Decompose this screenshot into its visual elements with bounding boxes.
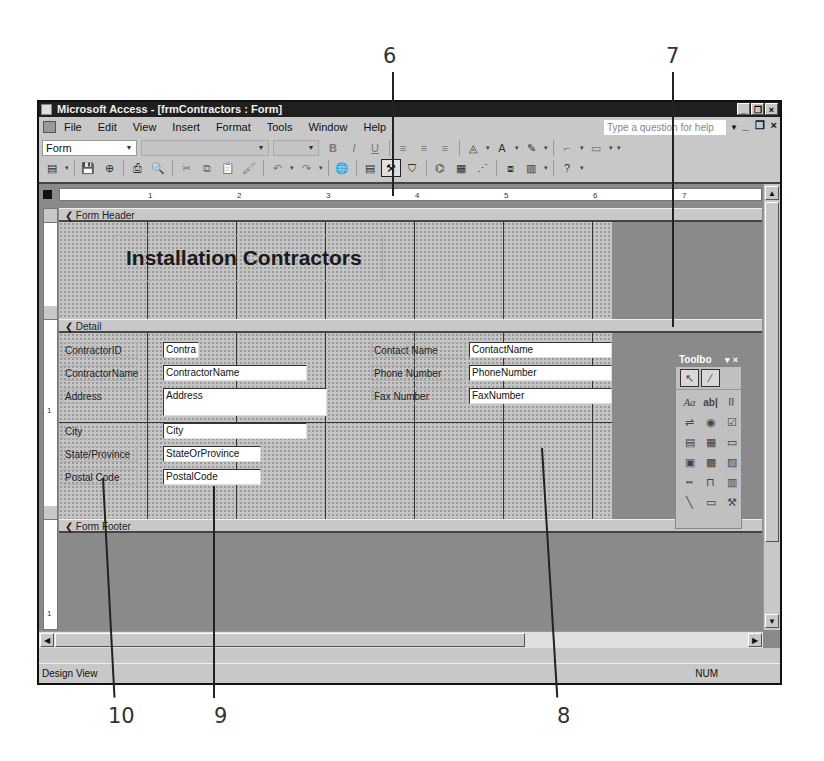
scroll-right-icon[interactable]: ▶: [748, 633, 762, 647]
chevron-down-icon[interactable]: ▼: [123, 142, 135, 154]
chevron-down-icon[interactable]: ▾: [542, 164, 550, 172]
doc-restore-button[interactable]: ❐: [755, 119, 765, 132]
save-button[interactable]: 💾: [78, 159, 98, 177]
fax-number-textbox[interactable]: FaxNumber: [469, 388, 612, 404]
menu-insert[interactable]: Insert: [172, 121, 200, 133]
label-tool[interactable]: Aa: [680, 393, 699, 411]
align-right-button[interactable]: ≡: [435, 139, 455, 157]
address-label[interactable]: Address: [62, 388, 137, 404]
subform-tool[interactable]: ▥: [722, 473, 741, 491]
tab-control-tool[interactable]: ⊓: [701, 473, 720, 491]
help-button[interactable]: ?: [557, 159, 577, 177]
menu-file[interactable]: File: [64, 121, 82, 133]
italic-button[interactable]: I: [344, 139, 364, 157]
vertical-scroll-thumb[interactable]: [765, 202, 779, 542]
font-name-combo[interactable]: ▼: [141, 140, 269, 156]
restore-button[interactable]: ❐: [751, 103, 764, 115]
detail-bar[interactable]: ❮ Detail: [59, 319, 762, 333]
command-button-tool[interactable]: ▭: [722, 433, 741, 451]
view-button[interactable]: ▤: [42, 159, 62, 177]
list-box-tool[interactable]: ▦: [701, 433, 720, 451]
fill-color-button[interactable]: ◬: [463, 139, 483, 157]
ask-question-dropdown-icon[interactable]: ▼: [728, 120, 740, 135]
city-label[interactable]: City: [62, 423, 137, 439]
form-header-bar[interactable]: ❮ Form Header: [59, 208, 762, 222]
new-object-button[interactable]: ▥: [521, 159, 541, 177]
scroll-up-icon[interactable]: ▲: [765, 186, 779, 200]
scroll-down-icon[interactable]: ▼: [765, 614, 779, 628]
menu-edit[interactable]: Edit: [98, 121, 117, 133]
code-button[interactable]: ⌬: [430, 159, 450, 177]
chevron-down-icon[interactable]: ▾: [578, 144, 586, 152]
chevron-down-icon[interactable]: ▾: [513, 144, 521, 152]
option-button-tool[interactable]: ◉: [701, 413, 720, 431]
doc-close-button[interactable]: ×: [771, 119, 777, 132]
toolbox-title-bar[interactable]: Toolbo ▾ ×: [676, 353, 741, 367]
menu-format[interactable]: Format: [216, 121, 251, 133]
check-box-tool[interactable]: ☑: [722, 413, 741, 431]
align-center-button[interactable]: ≡: [414, 139, 434, 157]
header-section-selector[interactable]: [44, 209, 57, 223]
chevron-down-icon[interactable]: ▾: [317, 164, 325, 172]
doc-minimize-button[interactable]: _: [742, 119, 748, 132]
more-controls-tool[interactable]: ⚒: [722, 493, 741, 511]
toolbox-button[interactable]: ⚒: [381, 159, 401, 177]
state-province-label[interactable]: State/Province: [62, 446, 137, 462]
text-box-tool[interactable]: ab|: [701, 393, 720, 411]
unbound-object-frame-tool[interactable]: ▩: [701, 453, 720, 471]
menu-tools[interactable]: Tools: [267, 121, 293, 133]
chevron-down-icon[interactable]: ▾: [607, 144, 615, 152]
chevron-down-icon[interactable]: ▾: [63, 164, 71, 172]
format-painter-button[interactable]: 🖌: [239, 159, 259, 177]
form-document-icon[interactable]: [43, 121, 56, 133]
toolbar-options-icon[interactable]: ▾: [578, 164, 586, 172]
autoformat-button[interactable]: ⛉: [402, 159, 422, 177]
form-footer-bar[interactable]: ❮ Form Footer: [59, 519, 762, 533]
chevron-down-icon[interactable]: ▾: [484, 144, 492, 152]
city-textbox[interactable]: City: [163, 423, 307, 439]
bold-button[interactable]: B: [323, 139, 343, 157]
scroll-left-icon[interactable]: ◀: [40, 633, 54, 647]
phone-number-label[interactable]: Phone Number: [371, 365, 465, 381]
bound-object-frame-tool[interactable]: ▨: [722, 453, 741, 471]
rectangle-tool[interactable]: ▭: [701, 493, 720, 511]
contractorid-textbox[interactable]: Contra: [163, 342, 199, 358]
contact-name-textbox[interactable]: ContactName: [469, 342, 612, 358]
form-selector[interactable]: [43, 190, 52, 199]
chevron-down-icon[interactable]: ▾: [542, 144, 550, 152]
detail-section[interactable]: ContractorID Contra ContractorName Contr…: [59, 333, 612, 519]
line-color-button[interactable]: ✎: [521, 139, 541, 157]
contractorname-textbox[interactable]: ContractorName: [163, 365, 307, 381]
print-preview-button[interactable]: 🔍: [148, 159, 168, 177]
horizontal-scrollbar[interactable]: ◀ ▶: [39, 631, 763, 648]
contact-name-label[interactable]: Contact Name: [371, 342, 465, 358]
menu-help[interactable]: Help: [364, 121, 387, 133]
contractorname-label[interactable]: ContractorName: [62, 365, 137, 381]
line-tool[interactable]: ╲: [680, 493, 699, 511]
state-province-textbox[interactable]: StateOrProvince: [163, 446, 261, 462]
select-objects-tool[interactable]: ↖: [680, 369, 699, 387]
vertical-scrollbar[interactable]: ▲ ▼: [763, 184, 780, 630]
vertical-ruler[interactable]: 1 1: [43, 208, 58, 630]
insert-hyperlink-button[interactable]: 🌐: [332, 159, 352, 177]
toolbox-controls[interactable]: ▾ ×: [725, 353, 738, 367]
paste-button[interactable]: 📋: [218, 159, 238, 177]
horizontal-scroll-thumb[interactable]: [55, 633, 525, 647]
close-button[interactable]: ×: [765, 103, 778, 115]
toolbar-options-icon[interactable]: ▾: [615, 144, 623, 152]
control-wizards-tool[interactable]: ⁄: [701, 369, 720, 387]
database-window-button[interactable]: ⧈: [500, 159, 520, 177]
copy-button[interactable]: ⧉: [197, 159, 217, 177]
chevron-down-icon[interactable]: ▾: [288, 164, 296, 172]
properties-button[interactable]: ▦: [451, 159, 471, 177]
postal-code-textbox[interactable]: PostalCode: [163, 469, 261, 485]
print-button[interactable]: ⎙: [127, 159, 147, 177]
footer-section-selector[interactable]: [44, 506, 57, 520]
option-group-tool[interactable]: ⌷: [722, 393, 741, 411]
detail-section-selector[interactable]: [44, 306, 57, 320]
search-button[interactable]: ⊕: [99, 159, 119, 177]
special-effect-button[interactable]: ▭: [586, 139, 606, 157]
cut-button[interactable]: ✂: [176, 159, 196, 177]
font-color-button[interactable]: A: [492, 139, 512, 157]
align-left-button[interactable]: ≡: [393, 139, 413, 157]
